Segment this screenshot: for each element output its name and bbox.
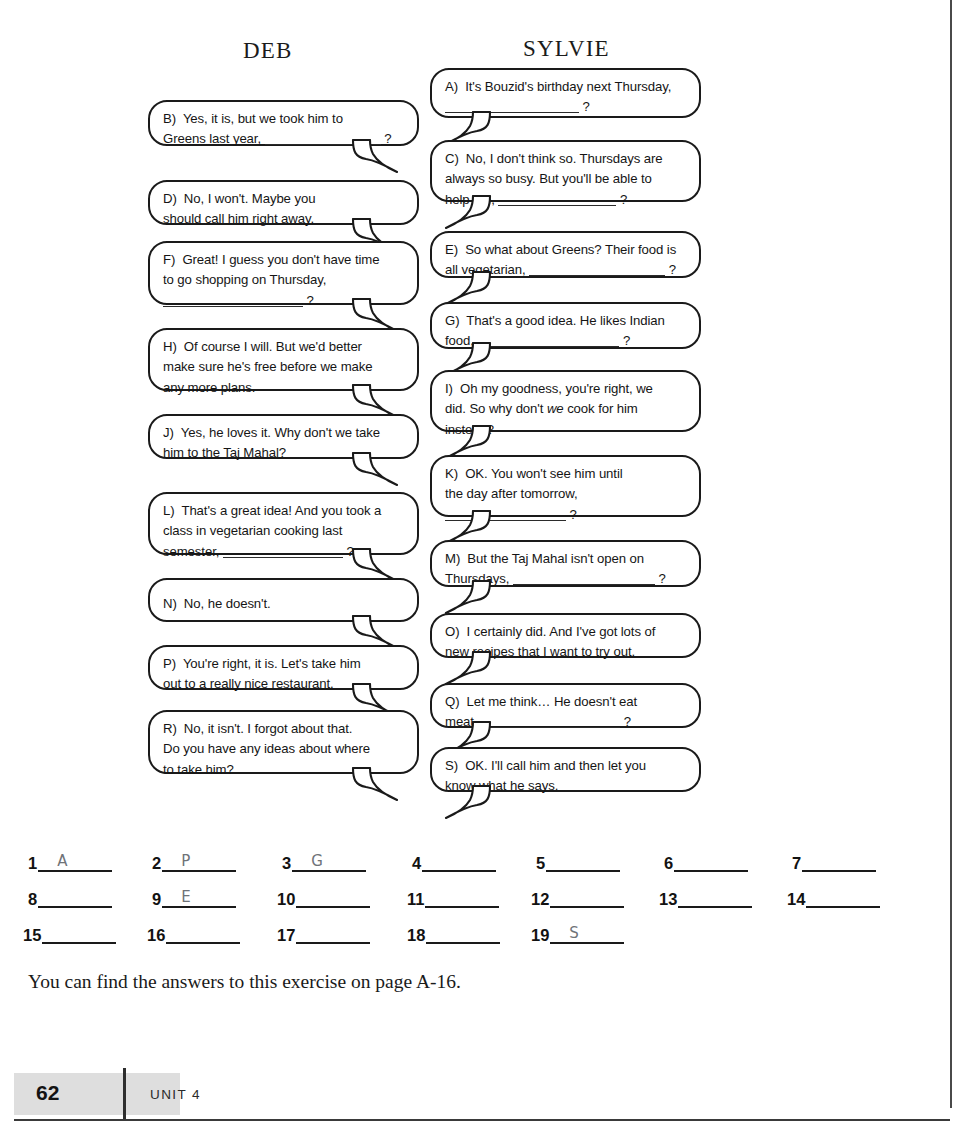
bubble-b-line1: Yes, it is, but we took him to <box>183 111 343 126</box>
answer-write-line[interactable] <box>296 924 370 944</box>
answer-write-line[interactable] <box>425 888 499 908</box>
bubble-a-question-mark: ? <box>583 99 590 114</box>
answer-blank-10[interactable]: 10 <box>277 888 370 908</box>
answer-written-value: S <box>569 925 579 941</box>
answer-blank-8[interactable]: 8 <box>28 888 112 908</box>
answer-blank-5[interactable]: 5 <box>536 852 620 872</box>
answer-blank-17[interactable]: 17 <box>277 924 370 944</box>
answer-write-line[interactable] <box>674 852 748 872</box>
bubble-m-answer-blank[interactable] <box>513 570 655 585</box>
footer-rule <box>14 1119 950 1121</box>
bubble-k-question-mark: ? <box>570 507 577 522</box>
bubble-l-answer-blank[interactable] <box>223 543 343 558</box>
page-right-border <box>950 0 952 1108</box>
answer-write-line[interactable] <box>426 924 500 944</box>
answer-blank-12[interactable]: 12 <box>531 888 624 908</box>
answer-blank-18[interactable]: 18 <box>407 924 500 944</box>
bubble-i-line2-emphasis: we <box>547 401 564 416</box>
bubble-e-answer-blank[interactable] <box>529 261 665 276</box>
answer-written-value: G <box>311 853 323 869</box>
answer-write-line[interactable]: P <box>162 852 236 872</box>
bubble-g-answer-blank[interactable] <box>477 332 619 347</box>
answer-blank-9[interactable]: 9 E <box>152 888 236 908</box>
bubble-i-label: I) <box>445 381 453 396</box>
bubble-n-line1: No, he doesn't. <box>184 596 271 611</box>
bubble-l-label: L) <box>163 503 175 518</box>
bubble-k-label: K) <box>445 466 458 481</box>
bubble-c-label: C) <box>445 151 459 166</box>
answer-write-line[interactable] <box>802 852 876 872</box>
answer-number: 12 <box>531 891 549 908</box>
answer-number: 11 <box>407 891 424 908</box>
bubble-i-line3: instead? <box>445 420 686 440</box>
bubble-n-label: N) <box>163 596 177 611</box>
answer-blank-3[interactable]: 3 G <box>282 852 366 872</box>
bubble-f-answer-blank[interactable] <box>163 292 303 307</box>
answer-write-line[interactable] <box>806 888 880 908</box>
answer-write-line[interactable] <box>38 888 112 908</box>
footer-divider <box>123 1068 126 1121</box>
bubble-a-answer-blank[interactable] <box>445 98 579 113</box>
answer-number: 4 <box>412 855 421 872</box>
bubble-b-label: B) <box>163 111 176 126</box>
answer-number: 10 <box>277 891 295 908</box>
answer-write-line[interactable] <box>546 852 620 872</box>
answer-write-line[interactable] <box>166 924 240 944</box>
bubble-k-answer-blank[interactable] <box>445 506 566 521</box>
answer-blank-15[interactable]: 15 <box>23 924 116 944</box>
answer-blank-7[interactable]: 7 <box>792 852 876 872</box>
bubble-r-line2: Do you have any ideas about where <box>163 739 404 759</box>
answer-blank-19[interactable]: 19 S <box>531 924 624 944</box>
answer-write-line[interactable]: E <box>162 888 236 908</box>
bubble-c-answer-blank[interactable] <box>498 191 616 206</box>
answer-blank-11[interactable]: 11 <box>407 888 499 908</box>
answer-blank-1[interactable]: 1 A <box>28 852 112 872</box>
answer-write-line[interactable] <box>42 924 116 944</box>
bubble-c-line2: always so busy. But you'll be able to <box>445 169 686 189</box>
bubble-h-label: H) <box>163 339 177 354</box>
answer-write-line[interactable]: A <box>38 852 112 872</box>
answer-write-line[interactable] <box>550 888 624 908</box>
answer-blank-14[interactable]: 14 <box>787 888 880 908</box>
answer-row-3: 15 16 17 18 19 S <box>28 924 918 960</box>
bubble-j-line1: Yes, he loves it. Why don't we take <box>181 425 380 440</box>
answer-write-line[interactable] <box>678 888 752 908</box>
bubble-m-question-mark: ? <box>658 571 665 586</box>
answer-write-line[interactable] <box>296 888 370 908</box>
bubble-l-line3: semester, <box>163 544 219 559</box>
answer-blank-6[interactable]: 6 <box>664 852 748 872</box>
answer-write-line[interactable]: S <box>550 924 624 944</box>
bubble-f-line1: Great! I guess you don't have time <box>182 252 379 267</box>
bubble-o-label: O) <box>445 624 459 639</box>
answer-blank-16[interactable]: 16 <box>147 924 240 944</box>
column-heading-sylvie: SYLVIE <box>523 36 610 62</box>
answer-written-value: P <box>181 853 190 869</box>
answer-number: 1 <box>28 855 37 872</box>
bubble-d-line1: No, I won't. Maybe you <box>184 191 316 206</box>
bubble-b-answer-blank[interactable] <box>265 130 381 145</box>
answer-number: 17 <box>277 927 295 944</box>
bubble-p-line1: You're right, it is. Let's take him <box>183 656 361 671</box>
speech-bubble-s: S) OK. I'll call him and then let you kn… <box>430 747 701 792</box>
bubble-q-answer-blank[interactable] <box>481 713 620 728</box>
bubble-l-question-mark: ? <box>346 544 353 559</box>
column-heading-deb: DEB <box>243 38 293 64</box>
speech-bubble-r: R) No, it isn't. I forgot about that. Do… <box>148 710 419 774</box>
bubble-s-line2: know what he says. <box>445 776 686 796</box>
bubble-g-question-mark: ? <box>623 333 630 348</box>
bubble-l-line2: class in vegetarian cooking last <box>163 521 404 541</box>
bubble-d-label: D) <box>163 191 177 206</box>
answer-write-line[interactable] <box>422 852 496 872</box>
answer-blank-13[interactable]: 13 <box>659 888 752 908</box>
answer-row-1: 1 A 2 P 3 G 4 5 6 <box>28 852 918 888</box>
speech-bubble-p: P) You're right, it is. Let's take him o… <box>148 645 419 690</box>
bubble-q-label: Q) <box>445 694 459 709</box>
answer-written-value: E <box>181 889 190 905</box>
answer-blank-4[interactable]: 4 <box>412 852 496 872</box>
workbook-page: DEB SYLVIE A) It's Bouzid's birthday nex… <box>0 0 959 1142</box>
answer-write-line[interactable]: G <box>292 852 366 872</box>
bubble-k-line2: the day after tomorrow, <box>445 484 686 504</box>
bubble-b-question-mark: ? <box>384 131 391 146</box>
bubble-g-label: G) <box>445 313 459 328</box>
answer-blank-2[interactable]: 2 P <box>152 852 236 872</box>
